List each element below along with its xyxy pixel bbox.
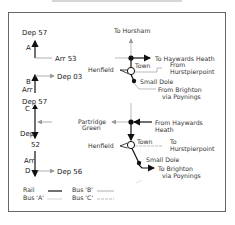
timeline-c-d: Dep 57 C Dep 52 Arr D Dep 56 <box>20 98 83 176</box>
letter-d: D <box>25 167 30 175</box>
legend-rail-label: Rail <box>23 186 35 193</box>
timeline-a-b: Dep 57 A Arr 53 Dep 03 B Arr <box>22 29 82 94</box>
map-panel-2: Partridge Green From Haywards Heath Town… <box>78 103 215 183</box>
henfield-label: Henfield <box>88 66 114 73</box>
legend-bus-b-label: Bus 'B' <box>72 186 93 193</box>
henfield-2-label: Henfield <box>88 142 114 149</box>
arr-53-label: Arr 53 <box>55 55 77 63</box>
from-hurst-label-1: From <box>170 61 185 68</box>
to-horsham-label: To Horsham <box>113 27 150 34</box>
small-dole-2-label: Small Dole <box>146 156 179 163</box>
town-2-label: Town <box>136 138 153 145</box>
letter-a: A <box>26 44 31 52</box>
route-diagram: Dep 57 A Arr 53 Dep 03 B Arr To Horsham … <box>0 0 235 225</box>
dep-56-label: Dep 56 <box>57 168 83 176</box>
town-label: Town <box>134 62 151 69</box>
from-haywards-label-2: Heath <box>155 126 174 133</box>
legend: Rail Bus 'B' Bus 'A' Bus 'C' <box>23 186 114 201</box>
map-panel-1: To Horsham To Haywards Heath Town Henfie… <box>88 27 215 101</box>
legend-bus-c-label: Bus 'C' <box>72 194 93 201</box>
num-52-label: 52 <box>31 141 40 149</box>
partridge-green-label-2: Green <box>82 124 101 131</box>
to-hurst-label-1: To <box>169 138 177 145</box>
from-hurst-label-2: Hurstpierpoint <box>170 68 215 76</box>
to-brighton-label-2: via Poynings <box>162 172 201 180</box>
dep-03-label: Dep 03 <box>57 73 82 81</box>
letter-b: B <box>26 78 31 86</box>
from-brighton-label-2: via Poynings <box>162 93 201 101</box>
small-dole-label: Small Dole <box>140 78 173 85</box>
dep-label: Dep <box>20 130 35 138</box>
to-hurst-label-2: Hurstpierpoint <box>170 145 215 153</box>
letter-c: C <box>25 105 30 113</box>
dep-57-label: Dep 57 <box>22 29 47 37</box>
arr-b-label: Arr <box>22 86 33 94</box>
legend-bus-a-label: Bus 'A' <box>23 194 44 201</box>
arr-d-label: Arr <box>24 157 35 165</box>
